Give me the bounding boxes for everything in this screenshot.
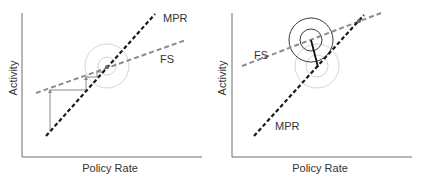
right-mpr-line xyxy=(254,15,364,136)
right-fs-label: FS xyxy=(254,49,268,61)
left-fs-line xyxy=(36,40,186,93)
right-x-axis-title: Policy Rate xyxy=(292,162,348,174)
left-equilibrium-point xyxy=(105,65,109,69)
left-x-axis-title: Policy Rate xyxy=(82,162,138,174)
right-equilibrium-point xyxy=(357,19,361,23)
left-y-axis-title: Activity xyxy=(7,60,19,95)
right-mpr-label: MPR xyxy=(275,120,300,132)
left-diagram: MPR FS Policy Rate Activity xyxy=(7,12,202,174)
right-y-axis-title: Activity xyxy=(216,60,228,95)
diagram-canvas: MPR FS Policy Rate Activity FS MPR Polic… xyxy=(0,0,421,181)
right-diagram: FS MPR Policy Rate Activity xyxy=(216,13,412,174)
left-mpr-label: MPR xyxy=(163,12,188,24)
left-mpr-line xyxy=(46,14,155,136)
left-fs-label: FS xyxy=(160,53,174,65)
